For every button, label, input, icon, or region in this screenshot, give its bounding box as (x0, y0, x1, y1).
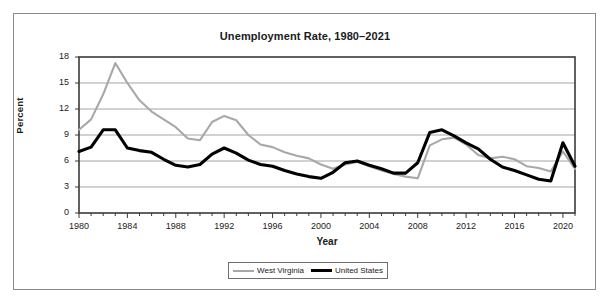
legend-item-united-states: United States (311, 266, 383, 275)
gridlines (79, 83, 575, 187)
data-series-group (79, 63, 575, 181)
legend-label-west-virginia: West Virginia (257, 266, 304, 275)
y-tick-label: 18 (45, 51, 69, 61)
plot-area (0, 0, 610, 303)
y-tick-label: 12 (45, 103, 69, 113)
legend-swatch-west-virginia (233, 270, 254, 272)
chart-legend: West Virginia United States (228, 262, 388, 279)
y-tick-label: 15 (45, 77, 69, 87)
chart-figure: Unemployment Rate, 1980–2021 Percent Yea… (0, 0, 610, 303)
x-tick-label: 1980 (59, 221, 99, 231)
series-line-united-states (79, 130, 575, 181)
legend-swatch-united-states (311, 269, 332, 272)
x-tick-label: 2004 (349, 221, 389, 231)
y-tick-label: 0 (45, 207, 69, 217)
x-tick-label: 1984 (107, 221, 147, 231)
legend-item-west-virginia: West Virginia (233, 266, 304, 275)
x-tick-label: 2020 (543, 221, 583, 231)
x-tick-label: 1996 (253, 221, 293, 231)
y-tick-label: 9 (45, 129, 69, 139)
legend-label-united-states: United States (335, 266, 383, 275)
x-tick-label: 1992 (204, 221, 244, 231)
x-tick-label: 2008 (398, 221, 438, 231)
y-tick-label: 6 (45, 155, 69, 165)
x-tick-label: 2012 (446, 221, 486, 231)
x-tick-label: 1988 (156, 221, 196, 231)
x-tick-label: 2000 (301, 221, 341, 231)
x-tick-label: 2016 (495, 221, 535, 231)
y-tick-label: 3 (45, 181, 69, 191)
